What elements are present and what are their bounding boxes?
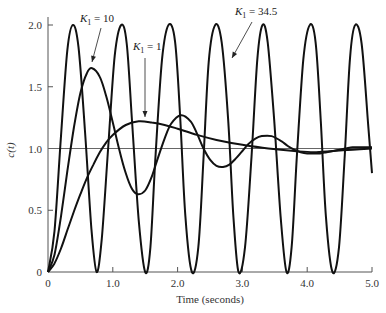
annotation-label: K1 = 10 [79,12,115,62]
annotation-label: K1 = 1 [132,40,162,117]
y-tick-label: 0 [37,266,43,278]
x-tick-label: 3.0 [236,277,250,289]
x-tick-label: 1.0 [106,277,120,289]
annotation-label: K1 = 34.5 [232,5,278,58]
series-k1-1 [48,121,372,272]
y-tick-label: 1.0 [28,143,42,155]
x-tick-label: 5.0 [365,277,379,289]
svg-text:K1 = 10: K1 = 10 [79,12,115,27]
y-axis-title: c(t) [4,142,17,158]
y-tick-label: 1.5 [28,81,42,93]
arrowhead-icon [143,111,148,117]
x-tick-label: 0 [45,277,51,289]
x-axis-title: Time (seconds) [176,293,244,306]
x-tick-label: 4.0 [300,277,314,289]
step-response-chart: 01.02.03.04.05.000.51.01.52.0 K1 = 10K1 … [0,0,386,313]
y-tick-label: 2.0 [28,19,42,31]
annotation-arrow [232,22,252,58]
y-tick-label: 0.5 [28,204,42,216]
arrowhead-icon [232,52,237,58]
svg-text:K1 = 34.5: K1 = 34.5 [234,5,278,20]
svg-text:K1 = 1: K1 = 1 [132,40,162,55]
x-tick-label: 2.0 [171,277,185,289]
